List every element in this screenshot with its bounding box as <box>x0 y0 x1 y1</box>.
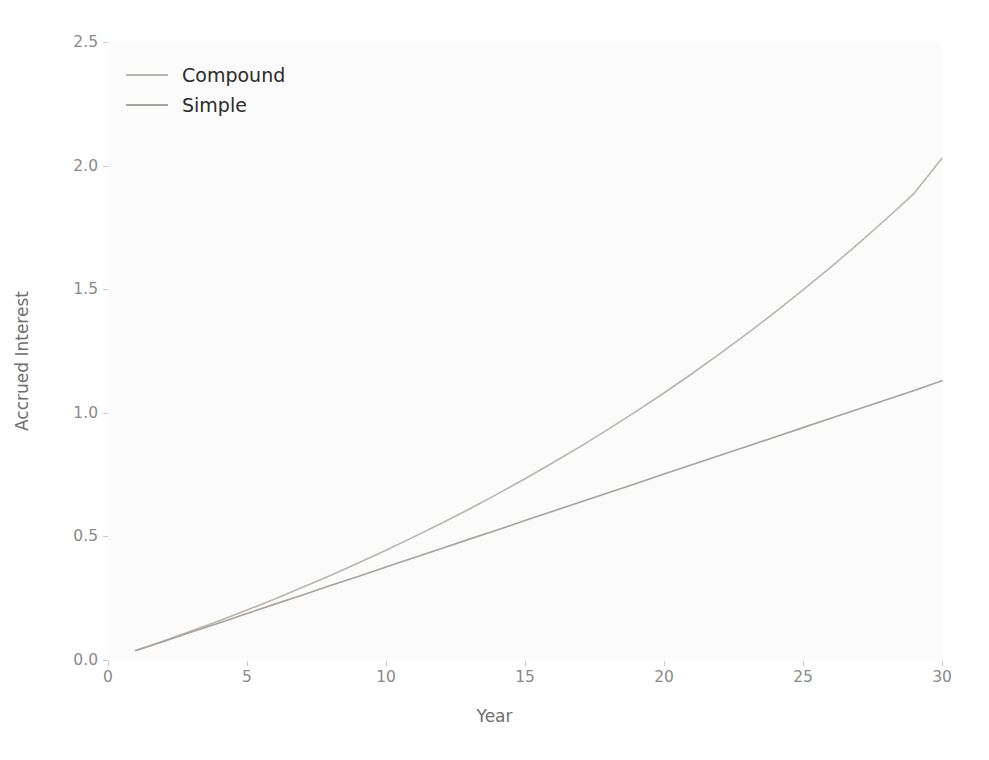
legend-line-swatch <box>126 104 168 106</box>
x-tick-mark <box>942 661 943 666</box>
legend-line-swatch <box>126 74 168 76</box>
x-tick-mark <box>664 661 665 666</box>
y-tick-mark <box>103 289 108 290</box>
y-tick-label: 2.5 <box>73 33 98 51</box>
y-tick-label: 0.5 <box>73 527 98 545</box>
x-tick-label: 10 <box>356 668 416 686</box>
legend-item-compound[interactable]: Compound <box>126 60 336 90</box>
x-tick-mark <box>525 661 526 666</box>
x-tick-label: 15 <box>495 668 555 686</box>
plot-area <box>108 42 942 660</box>
y-tick-label: 1.5 <box>73 280 98 298</box>
y-tick-label: 1.0 <box>73 404 98 422</box>
x-tick-label: 5 <box>217 668 277 686</box>
y-tick-mark <box>103 413 108 414</box>
legend-label: Simple <box>182 96 247 115</box>
x-axis-label: Year <box>0 706 989 726</box>
y-tick-label: 0.0 <box>73 651 98 669</box>
legend: CompoundSimple <box>126 60 336 120</box>
y-tick-mark <box>103 536 108 537</box>
y-axis-label: Accrued Interest <box>12 251 32 471</box>
figure-canvas: 0.00.51.01.52.02.5 051015202530 Year Acc… <box>0 0 989 760</box>
x-tick-mark <box>803 661 804 666</box>
x-tick-label: 20 <box>634 668 694 686</box>
y-tick-mark <box>103 166 108 167</box>
x-tick-mark <box>108 661 109 666</box>
x-tick-label: 30 <box>912 668 972 686</box>
x-tick-mark <box>247 661 248 666</box>
x-tick-label: 0 <box>78 668 138 686</box>
y-tick-label: 2.0 <box>73 157 98 175</box>
legend-label: Compound <box>182 66 285 85</box>
y-tick-mark <box>103 42 108 43</box>
x-tick-label: 25 <box>773 668 833 686</box>
x-tick-mark <box>386 661 387 666</box>
legend-item-simple[interactable]: Simple <box>126 90 336 120</box>
